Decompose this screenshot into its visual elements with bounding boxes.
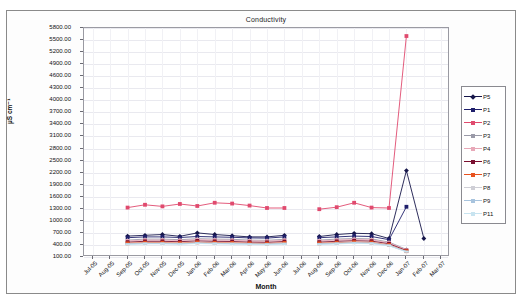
y-tick-label: 4000.00 (11, 96, 71, 102)
y-tick-label: 4900.00 (11, 60, 71, 66)
x-tick-mark (161, 256, 162, 259)
data-point (387, 245, 391, 247)
legend-label: P9 (482, 198, 490, 204)
y-tick-label: 1600.00 (11, 193, 71, 199)
x-tick-mark (353, 256, 354, 259)
x-tick-mark (249, 256, 250, 259)
legend-marker-icon (464, 118, 482, 127)
data-point (143, 243, 147, 245)
x-tick-mark (405, 256, 406, 259)
y-tick-label: 2500.00 (11, 157, 71, 163)
y-tick-label: 5500.00 (11, 36, 71, 42)
y-tick-label: 1900.00 (11, 181, 71, 187)
series-line (319, 171, 424, 239)
legend-item-P7[interactable]: P7 (464, 168, 503, 181)
data-point (405, 34, 409, 38)
data-point (317, 207, 321, 211)
data-point (247, 244, 251, 246)
legend-label: P6 (482, 159, 490, 165)
y-tick-label: 3100.00 (11, 132, 71, 138)
series-P7 (126, 240, 409, 253)
y-tick-mark (80, 256, 83, 257)
legend-item-P3[interactable]: P3 (464, 129, 503, 142)
data-point (178, 202, 182, 206)
data-point (161, 204, 165, 208)
x-tick-mark (179, 256, 180, 259)
y-tick-mark (80, 123, 83, 124)
y-tick-mark (80, 196, 83, 197)
series-line (319, 36, 406, 209)
x-tick-mark (196, 256, 197, 259)
series-P11 (125, 243, 408, 253)
y-tick-label: 1000.00 (11, 217, 71, 223)
x-tick-mark (127, 256, 128, 259)
y-tick-label: 2800.00 (11, 145, 71, 151)
legend-label: P3 (482, 133, 490, 139)
y-tick-mark (80, 99, 83, 100)
data-point (335, 205, 339, 209)
series-P6 (126, 239, 409, 253)
legend-marker-icon (464, 92, 482, 101)
legend-item-P6[interactable]: P6 (464, 155, 503, 168)
y-tick-mark (80, 39, 83, 40)
y-tick-mark (80, 27, 83, 28)
legend-marker-icon (464, 196, 482, 205)
legend-item-P9[interactable]: P9 (464, 194, 503, 207)
data-point (265, 206, 269, 210)
y-tick-mark (80, 111, 83, 112)
legend-item-P11[interactable]: P11 (464, 207, 503, 220)
data-point (369, 243, 373, 245)
x-tick-mark (336, 256, 337, 259)
y-tick-mark (80, 232, 83, 233)
legend-item-P5[interactable]: P5 (464, 90, 503, 103)
legend-marker-icon (464, 131, 482, 140)
legend-item-P1[interactable]: P1 (464, 103, 503, 116)
data-point (230, 243, 234, 245)
legend-marker-icon (464, 209, 482, 218)
y-tick-mark (80, 160, 83, 161)
chart-page: Conductivity µS cm⁻¹ 5800.005500.005200.… (0, 0, 524, 304)
legend-marker-icon (464, 183, 482, 192)
x-tick-mark (423, 256, 424, 259)
data-point (248, 204, 252, 208)
data-point (405, 205, 409, 209)
data-point (265, 244, 269, 246)
y-tick-label: 5800.00 (11, 24, 71, 30)
data-point (335, 243, 339, 245)
data-point (126, 206, 130, 210)
y-tick-mark (80, 220, 83, 221)
legend: P5P1P2P3P4P6P7P8P9P11 (461, 86, 506, 224)
legend-label: P1 (482, 107, 490, 113)
legend-dot (471, 199, 475, 203)
data-point (230, 202, 234, 206)
legend-label: P7 (482, 172, 490, 178)
y-tick-label: 3700.00 (11, 108, 71, 114)
x-tick-mark (144, 256, 145, 259)
legend-dot (471, 186, 475, 190)
y-tick-label: 4600.00 (11, 72, 71, 78)
y-tick-label: 3400.00 (11, 120, 71, 126)
data-point (352, 201, 356, 205)
legend-label: P11 (482, 211, 493, 217)
legend-label: P8 (482, 185, 490, 191)
legend-item-P2[interactable]: P2 (464, 116, 503, 129)
data-point (160, 243, 164, 245)
x-tick-mark (440, 256, 441, 259)
x-axis-label: Month (83, 283, 449, 290)
data-point (178, 244, 182, 246)
series-P2 (126, 34, 409, 211)
data-point (421, 236, 426, 241)
legend-item-P4[interactable]: P4 (464, 142, 503, 155)
legend-marker-icon (464, 105, 482, 114)
legend-item-P8[interactable]: P8 (464, 181, 503, 194)
legend-dot (470, 94, 476, 100)
y-tick-mark (80, 208, 83, 209)
page-title: Conductivity (83, 16, 449, 23)
x-tick-mark (318, 256, 319, 259)
y-tick-label: 100.00 (11, 253, 71, 259)
y-tick-label: 700.00 (11, 229, 71, 235)
legend-label: P2 (482, 120, 490, 126)
x-tick-mark (109, 256, 110, 259)
y-tick-label: 400.00 (11, 241, 71, 247)
data-point (143, 203, 147, 207)
